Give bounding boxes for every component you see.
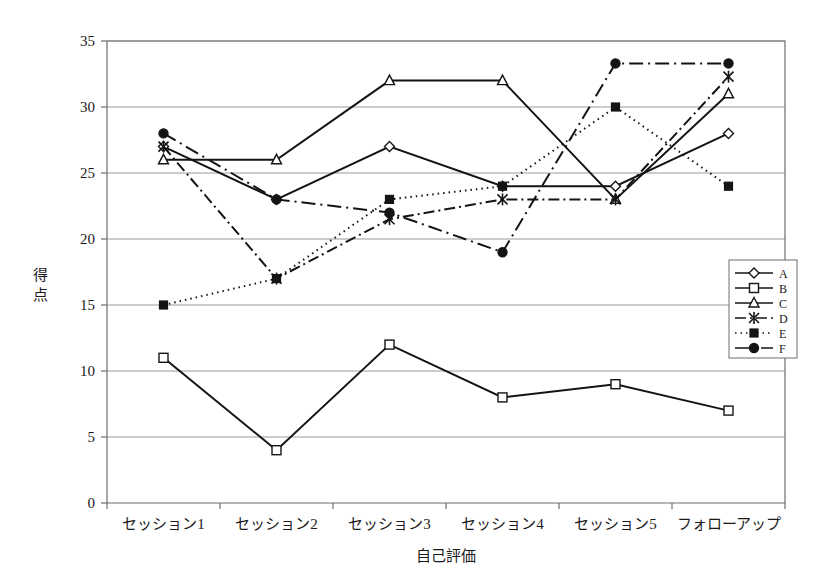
data-point-marker (724, 59, 733, 68)
series-f (159, 59, 733, 257)
series-b (159, 340, 733, 455)
data-point-marker (272, 446, 281, 455)
data-point-marker (611, 181, 621, 191)
x-tick-label: セッション2 (235, 516, 318, 532)
data-point-marker (724, 128, 734, 138)
series-a (159, 128, 734, 204)
data-point-marker (612, 103, 620, 111)
series-d (159, 71, 734, 285)
data-point-marker (160, 301, 168, 309)
data-point-marker (750, 284, 759, 293)
series-line-e (164, 107, 729, 305)
plot-frame (107, 41, 785, 503)
series-line-b (164, 345, 729, 451)
y-axis-tick-labels: 05101520253035 (80, 33, 107, 511)
y-tick-label: 35 (80, 33, 95, 49)
data-point-marker (159, 353, 168, 362)
data-point-marker (611, 59, 620, 68)
data-point-marker (159, 129, 168, 138)
x-axis-tickmarks (107, 503, 785, 509)
data-point-marker (385, 142, 395, 152)
y-tick-label: 25 (80, 165, 95, 181)
y-tick-label: 20 (80, 231, 95, 247)
legend-label-d: D (779, 312, 788, 326)
y-tick-label: 10 (80, 363, 95, 379)
legend-label-f: F (779, 342, 786, 356)
y-tick-label: 0 (88, 495, 96, 511)
data-point-marker (724, 406, 733, 415)
data-point-marker (724, 71, 734, 83)
series-line-a (164, 133, 729, 199)
data-point-marker (725, 182, 733, 190)
x-tick-label: セッション1 (122, 516, 205, 532)
series-line-c (164, 81, 729, 200)
x-tick-label: セッション4 (461, 516, 544, 532)
y-axis-title: 得点 (33, 267, 48, 303)
y-axis-title-char: 点 (33, 287, 48, 303)
y-tick-label: 30 (80, 99, 95, 115)
data-point-marker (386, 195, 394, 203)
data-point-marker (272, 195, 281, 204)
data-point-marker (498, 248, 507, 257)
data-point-marker (385, 208, 394, 217)
legend-marker-f (749, 343, 758, 352)
data-point-marker (749, 343, 758, 352)
x-tick-label: セッション5 (574, 516, 657, 532)
data-point-marker (273, 275, 281, 283)
x-tick-label: セッション3 (348, 516, 431, 532)
data-point-marker (750, 329, 758, 337)
legend-label-a: A (779, 267, 788, 281)
y-axis-title-char: 得 (33, 267, 48, 283)
gridlines-group (107, 41, 785, 437)
legend-label-e: E (779, 327, 786, 341)
data-point-marker (385, 340, 394, 349)
legend-label-b: B (779, 282, 787, 296)
line-chart: 05101520253035 セッション1セッション2セッション3セッション4セ… (0, 0, 828, 578)
x-tick-label: フォローアップ (677, 516, 781, 532)
series-line-f (164, 63, 729, 252)
data-point-marker (498, 393, 507, 402)
legend-marker-b (750, 284, 759, 293)
data-point-marker (724, 88, 734, 98)
legend-marker-e (750, 329, 758, 337)
y-tick-label: 15 (80, 297, 95, 313)
data-point-marker (611, 380, 620, 389)
x-axis-tick-labels: セッション1セッション2セッション3セッション4セッション5フォローアップ (122, 516, 780, 532)
chart-legend: ABCDEF (729, 260, 797, 358)
data-series-group (159, 59, 734, 455)
chart-container: 05101520253035 セッション1セッション2セッション3セッション4セ… (0, 0, 828, 578)
y-tick-label: 5 (88, 429, 96, 445)
x-axis-title: 自己評価 (416, 548, 476, 564)
data-point-marker (499, 182, 507, 190)
data-point-marker (498, 193, 508, 205)
series-e (160, 103, 733, 309)
legend-label-c: C (779, 297, 787, 311)
